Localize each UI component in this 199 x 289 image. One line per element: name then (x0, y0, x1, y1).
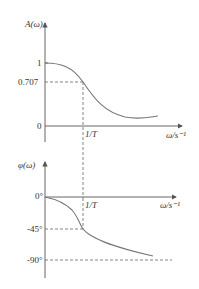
frequency-response-diagram: A(ω) 1 0.707 0 1/T ω/s⁻¹ φ(ω) 0° -45° -9… (0, 0, 199, 289)
amplitude-tick-label-0707: 0.707 (18, 77, 39, 87)
phase-x-label: ω/s⁻¹ (160, 200, 180, 210)
phase-plot: φ(ω) 0° -45° -90° 1/T ω/s⁻¹ (18, 160, 180, 278)
phase-tick-label-90: -90° (27, 255, 43, 265)
amplitude-plot: A(ω) 1 0.707 0 1/T ω/s⁻¹ (18, 19, 186, 198)
phase-curve (45, 197, 153, 256)
phase-y-label: φ(ω) (18, 160, 35, 170)
amplitude-corner-label: 1/T (85, 129, 98, 139)
amplitude-curve (45, 63, 158, 118)
amplitude-tick-label-0: 0 (37, 121, 42, 131)
amplitude-tick-label-1: 1 (37, 58, 42, 68)
amplitude-x-label: ω/s⁻¹ (166, 130, 186, 140)
phase-tick-label-0: 0° (35, 191, 44, 201)
phase-corner-label: 1/T (85, 200, 98, 210)
amplitude-y-label: A(ω) (24, 19, 43, 29)
phase-tick-label-45: -45° (27, 224, 43, 234)
